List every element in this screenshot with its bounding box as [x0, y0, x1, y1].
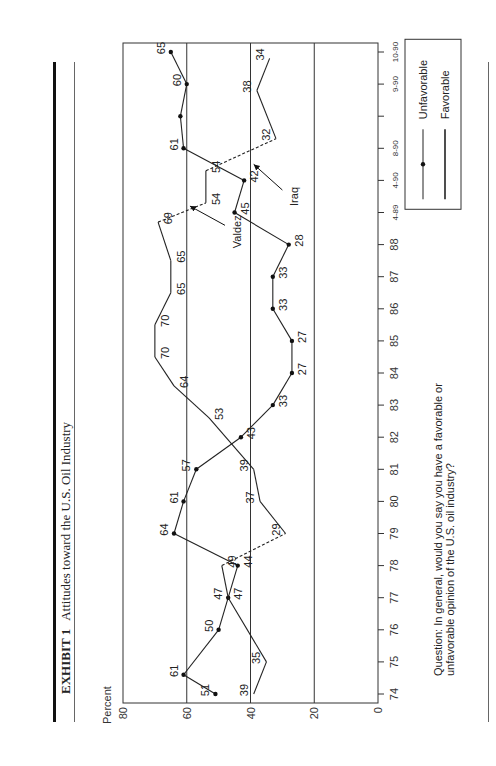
favorable-value-label: 53: [213, 408, 225, 420]
x-tick-label: 77: [388, 592, 400, 604]
unfavorable-value-label: 61: [168, 491, 180, 503]
favorable-value-label: 39: [238, 684, 250, 696]
unfavorable-marker: [181, 499, 185, 503]
favorable-segment: [158, 222, 171, 261]
unfavorable-value-label: 57: [180, 459, 192, 471]
favorable-segment: [155, 357, 174, 386]
x-tick-label: 74: [388, 688, 400, 700]
favorable-value-label: 37: [244, 491, 256, 503]
unfavorable-value-label: 65: [155, 42, 167, 54]
unfavorable-value-label: 60: [171, 74, 183, 86]
x-tick-label: 78: [388, 559, 400, 571]
favorable-value-label: 39: [238, 459, 250, 471]
unfavorable-marker: [287, 242, 291, 246]
favorable-value-label: 69: [162, 212, 174, 224]
survey-question: Question: In general, would you say you …: [432, 376, 456, 676]
x-tick-label: 83: [388, 399, 400, 411]
unfavorable-marker: [169, 50, 173, 54]
favorable-value-label: 47: [232, 588, 244, 600]
x-tick-label: 87: [388, 271, 400, 283]
unfavorable-marker: [181, 146, 185, 150]
favorable-segment: [174, 386, 209, 418]
y-tick-label: 0: [372, 707, 384, 713]
unfavorable-marker: [185, 82, 189, 86]
unfavorable-value-label: 43: [245, 427, 257, 439]
favorable-value-label: 54: [210, 193, 222, 205]
unfavorable-marker: [290, 339, 294, 343]
unfavorable-marker: [194, 467, 198, 471]
favorable-value-label: 70: [159, 315, 171, 327]
unfavorable-marker: [213, 692, 217, 696]
unfavorable-value-label: 51: [199, 684, 211, 696]
favorable-value-label: 65: [175, 251, 187, 263]
unfavorable-segment: [174, 501, 184, 533]
favorable-value-label: 65: [175, 283, 187, 295]
unfavorable-value-label: 61: [168, 665, 180, 677]
legend-label-favorable: Favorable: [439, 70, 451, 119]
unfavorable-value-label: 47: [212, 588, 224, 600]
valdez-annotation: Valdez: [231, 215, 243, 248]
legend-box: [405, 39, 461, 209]
unfavorable-marker: [216, 628, 220, 632]
favorable-value-label: 32: [260, 129, 272, 141]
favorable-value-label: 38: [241, 80, 253, 92]
line-chart: 020406080Percent747576777879808182838485…: [0, 0, 496, 766]
unfavorable-marker: [242, 178, 246, 182]
unfavorable-marker: [181, 673, 185, 677]
y-tick-label: 80: [117, 707, 129, 719]
x-tick-label: 82: [388, 431, 400, 443]
unfavorable-marker: [232, 210, 236, 214]
x-tick-label: 88: [388, 238, 400, 250]
bottom-rule: [488, 62, 489, 722]
y-axis-title: Percent: [101, 686, 113, 724]
unfavorable-value-label: 42: [248, 170, 260, 182]
unfavorable-segment: [273, 309, 292, 341]
unfavorable-value-label: 27: [296, 363, 308, 375]
x-tick-label: 10-90: [391, 41, 400, 62]
unfavorable-segment: [184, 630, 219, 675]
x-tick-label: 8-90: [391, 140, 400, 157]
unfavorable-segment: [184, 469, 197, 501]
favorable-value-label: 49: [226, 555, 238, 567]
unfavorable-marker: [271, 403, 275, 407]
x-tick-label: 75: [388, 656, 400, 668]
rotated-page: EXHIBIT 1Attitudes toward the U.S. Oil I…: [0, 0, 496, 766]
unfavorable-value-label: 33: [277, 299, 289, 311]
x-tick-label: 81: [388, 463, 400, 475]
favorable-segment: [254, 662, 267, 694]
x-tick-label: 4-89: [391, 204, 400, 221]
unfavorable-marker: [178, 114, 182, 118]
y-tick-label: 60: [181, 707, 193, 719]
favorable-value-label: 64: [178, 376, 190, 388]
x-tick-label: 79: [388, 527, 400, 539]
y-tick-label: 40: [245, 707, 257, 719]
favorable-value-label: 34: [254, 48, 266, 60]
unfavorable-value-label: 27: [296, 331, 308, 343]
unfavorable-value-label: 64: [158, 523, 170, 535]
unfavorable-marker: [290, 371, 294, 375]
unfavorable-value-label: 44: [242, 555, 254, 567]
unfavorable-marker: [239, 435, 243, 439]
x-tick-label: 85: [388, 335, 400, 347]
unfavorable-value-label: 33: [277, 267, 289, 279]
y-tick-label: 20: [308, 707, 320, 719]
x-tick-label: 80: [388, 495, 400, 507]
x-tick-label: 9-90: [391, 76, 400, 93]
legend-label-unfavorable: Unfavorable: [417, 60, 429, 119]
unfavorable-value-label: 45: [239, 202, 251, 214]
favorable-segment: [257, 58, 270, 90]
x-tick-label: 84: [388, 367, 400, 379]
x-tick-label: 86: [388, 303, 400, 315]
unfavorable-marker: [271, 275, 275, 279]
unfavorable-segment: [196, 437, 241, 469]
unfavorable-value-label: 33: [277, 395, 289, 407]
unfavorable-value-label: 50: [203, 620, 215, 632]
iraq-annotation: Iraq: [288, 187, 300, 206]
unfavorable-segment: [180, 116, 183, 148]
favorable-value-label: 70: [159, 347, 171, 359]
unfavorable-value-label: 28: [293, 234, 305, 246]
unfavorable-segment: [219, 598, 229, 630]
unfavorable-segment: [180, 84, 186, 116]
unfavorable-value-label: 61: [168, 138, 180, 150]
unfavorable-marker: [172, 531, 176, 535]
